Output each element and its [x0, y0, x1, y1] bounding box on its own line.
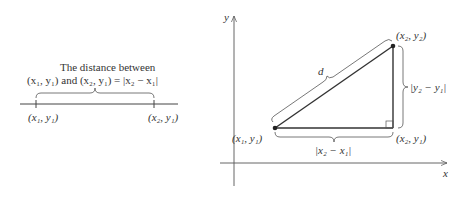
point-p1: [273, 126, 278, 131]
horizontal-brace: [275, 132, 393, 142]
left-point-label: (x₁, y₁): [28, 112, 58, 123]
point-p2: [391, 44, 396, 49]
left-caption-line1: The distance between: [60, 62, 155, 73]
y-axis-label: y: [224, 12, 229, 23]
point-p2-label: (x₂, y₂): [396, 30, 426, 41]
vertical-distance-label: |y₂ − y₁|: [410, 82, 446, 93]
right-point-label: (x₂, y₁): [148, 112, 178, 123]
right-triangle: [273, 44, 396, 131]
point-corner-label: (x₂, y₁): [396, 133, 426, 144]
hypotenuse: [275, 46, 393, 128]
x-axis-label: x: [443, 168, 448, 179]
left-caption-line2: (x₁, y₁) and (x₂, y₁) = |x₂ − x₁|: [27, 75, 158, 86]
horizontal-distance-label: |x₂ − x₁|: [315, 145, 351, 156]
hypotenuse-label: d: [318, 66, 324, 77]
right-angle-marker: [386, 121, 393, 128]
point-p1-label: (x₁, y₁): [232, 133, 262, 144]
vertical-brace: [398, 46, 408, 128]
left-number-line: [20, 88, 178, 108]
hypotenuse-brace: [272, 40, 392, 123]
distance-brace: [36, 88, 154, 98]
coordinate-axes: [220, 16, 447, 186]
